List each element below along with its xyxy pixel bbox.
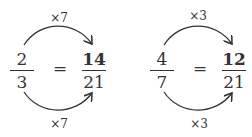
bottom-multiplier: ×7 [44, 117, 74, 131]
bottom-multiplier: ×3 [184, 117, 214, 131]
equals-sign: = [193, 58, 207, 78]
top-multiplier: ×3 [183, 9, 213, 23]
right-fraction: 14 21 [82, 50, 106, 91]
left-fraction: 2 3 [10, 50, 34, 91]
right-fraction: 12 21 [222, 50, 246, 91]
top-multiplier: ×7 [44, 11, 74, 25]
equals-sign: = [53, 58, 67, 78]
left-fraction: 4 7 [150, 50, 174, 91]
example-1: ×7 2 3 = 14 21 ×7 [0, 0, 126, 137]
example-2: ×3 4 7 = 12 21 ×3 [126, 0, 252, 137]
